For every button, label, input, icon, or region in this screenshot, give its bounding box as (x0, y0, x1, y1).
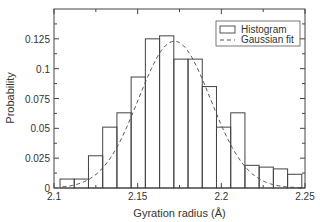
y-tick-label: 0.025 (25, 153, 50, 164)
x-tick-label: 2.2 (214, 191, 228, 202)
histogram-bar (160, 36, 174, 188)
y-tick-label: 0.05 (31, 123, 51, 134)
y-tick-label: 0.075 (25, 94, 50, 105)
y-axis-ticks: 00.0250.050.0750.10.125 (25, 24, 305, 194)
histogram-bar (188, 59, 202, 188)
histogram-bar (259, 167, 273, 188)
histogram-bar (231, 113, 245, 188)
histogram-bar (288, 174, 302, 188)
histogram-bars (60, 36, 302, 188)
histogram-bar (216, 127, 230, 188)
y-axis-label: Probability (4, 72, 16, 124)
histogram-bar (117, 113, 131, 188)
gaussian-fit-line (62, 41, 305, 188)
histogram-bar (60, 179, 74, 188)
x-axis-label: Gyration radius (Å) (133, 207, 225, 219)
histogram-chart: 00.0250.050.0750.10.125 2.12.152.22.25 G… (0, 0, 320, 222)
histogram-bar (131, 77, 145, 188)
histogram-bar (88, 156, 102, 188)
legend-gaussian-label: Gaussian fit (241, 34, 294, 45)
y-tick-label: 0.125 (25, 34, 50, 45)
histogram-bar (174, 59, 188, 188)
histogram-bar (145, 39, 159, 188)
x-tick-label: 2.15 (128, 191, 148, 202)
histogram-bar (202, 87, 216, 188)
x-tick-label: 2.1 (47, 191, 61, 202)
histogram-bar (103, 127, 117, 188)
y-tick-label: 0.1 (36, 64, 50, 75)
legend: Histogram Gaussian fit (216, 21, 300, 46)
x-tick-label: 2.25 (295, 191, 315, 202)
histogram-bar (273, 169, 287, 188)
